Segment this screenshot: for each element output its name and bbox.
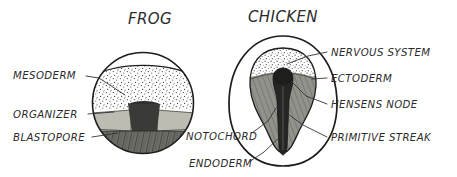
chicken-embryo: [229, 36, 337, 166]
chicken-hensens-node: [274, 69, 293, 86]
label-organizer: ORGANIZER: [13, 109, 78, 120]
label-ectoderm: ECTODERM: [331, 73, 392, 84]
label-blastopore: BLASTOPORE: [13, 132, 85, 143]
embryo-comparison-diagram: FROG: [0, 0, 457, 177]
frog-embryo: [90, 50, 198, 160]
label-mesoderm: MESODERM: [13, 70, 76, 81]
label-endoderm: ENDODERM: [189, 158, 252, 169]
frog-title: FROG: [128, 10, 172, 28]
frog-panel: FROG: [13, 10, 198, 160]
label-primitive-streak: PRIMITIVE STREAK: [331, 132, 432, 143]
label-notochord: NOTOCHORD: [186, 131, 257, 142]
diagram-canvas: FROG: [0, 0, 457, 177]
label-nervous-system: NERVOUS SYSTEM: [331, 47, 431, 58]
chicken-panel: CHICKEN: [186, 8, 432, 169]
chicken-title: CHICKEN: [248, 8, 318, 26]
label-hensens-node: HENSENS NODE: [331, 99, 418, 110]
